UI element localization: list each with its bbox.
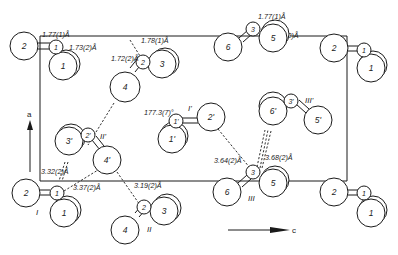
svg-text:1: 1 (54, 44, 58, 51)
bond-length-6: 1.77(1)Å (258, 12, 286, 21)
svg-text:3: 3 (251, 169, 255, 176)
svg-text:1: 1 (61, 61, 66, 71)
contact-distance-3: 3.19(2)Å (134, 181, 162, 190)
svg-text:6': 6' (270, 106, 277, 116)
svg-text:3: 3 (251, 26, 255, 33)
svg-text:6: 6 (225, 187, 230, 197)
svg-text:3: 3 (160, 59, 165, 69)
svg-text:2: 2 (331, 43, 337, 53)
bond-length-3: 1.78(1)Å (141, 36, 169, 45)
crystal-structure-diagram: a c 2 1 1 1.77(1)Å 1.73(2)Å 4 3 2 (0, 0, 398, 255)
axis-c-label: c (292, 226, 296, 235)
contact-distance-4: 3.64(2)Å (214, 156, 242, 165)
molecule-label-III-prime: III' (305, 96, 314, 105)
svg-text:4: 4 (123, 82, 128, 92)
axis-a-label: a (27, 110, 32, 119)
svg-text:6: 6 (226, 42, 231, 52)
molecule-II-bottom: 4 3 2 (111, 194, 181, 244)
molecule-I-right-top: 2 1 1 (320, 34, 387, 82)
svg-text:2': 2' (207, 112, 215, 122)
svg-text:1': 1' (169, 134, 176, 144)
contact-distance-2: 3.37(2)Å (73, 183, 101, 192)
molecule-label-II-prime: II' (100, 132, 106, 141)
svg-text:3': 3' (66, 136, 73, 146)
svg-text:1: 1 (62, 208, 67, 218)
molecule-label-I-prime: I' (188, 104, 192, 113)
molecule-label-II: II (147, 225, 152, 234)
svg-text:1': 1' (173, 118, 179, 125)
svg-text:5: 5 (271, 33, 276, 43)
svg-text:1: 1 (55, 190, 59, 197)
contact-3-5prime (257, 130, 265, 167)
svg-text:2': 2' (84, 132, 91, 139)
molecule-III-prime: 6' 5' 3' (259, 92, 332, 134)
bond-length-1: 1.77(1)Å (42, 30, 70, 39)
axis-a-arrow: a (27, 110, 33, 172)
molecule-I-bottom: 2 1 1 (12, 179, 81, 227)
molecule-I-top: 2 1 1 (10, 32, 80, 80)
svg-text:1: 1 (369, 208, 374, 218)
svg-text:3: 3 (162, 206, 167, 216)
bond-length-4: 1.72(2)Å (111, 54, 139, 63)
svg-text:2: 2 (23, 188, 29, 198)
svg-text:3': 3' (288, 98, 294, 105)
contact-distance-5: 3.68(2)Å (265, 153, 293, 162)
svg-text:5: 5 (271, 178, 276, 188)
svg-text:2: 2 (331, 187, 337, 197)
svg-text:4': 4' (104, 155, 111, 165)
angle-label: 177.3(7)° (144, 108, 174, 117)
bond-length-2: 1.73(2)Å (69, 43, 97, 52)
svg-text:4: 4 (123, 225, 128, 235)
svg-text:1: 1 (369, 63, 374, 73)
molecule-III-top: 6 5 3 (214, 20, 289, 61)
contact-distance-1: 3.32(2)Å (41, 167, 69, 176)
molecule-label-III: III (248, 194, 255, 203)
svg-text:5': 5' (315, 115, 322, 125)
svg-text:2: 2 (21, 41, 27, 51)
svg-text:1: 1 (362, 190, 366, 197)
svg-text:2: 2 (141, 204, 146, 211)
molecule-I-right-bottom: 2 1 1 (320, 178, 387, 227)
molecule-label-I: I (36, 208, 39, 217)
svg-text:1: 1 (362, 47, 366, 54)
axis-c-arrow: c (228, 226, 296, 235)
svg-text:2: 2 (140, 59, 145, 66)
